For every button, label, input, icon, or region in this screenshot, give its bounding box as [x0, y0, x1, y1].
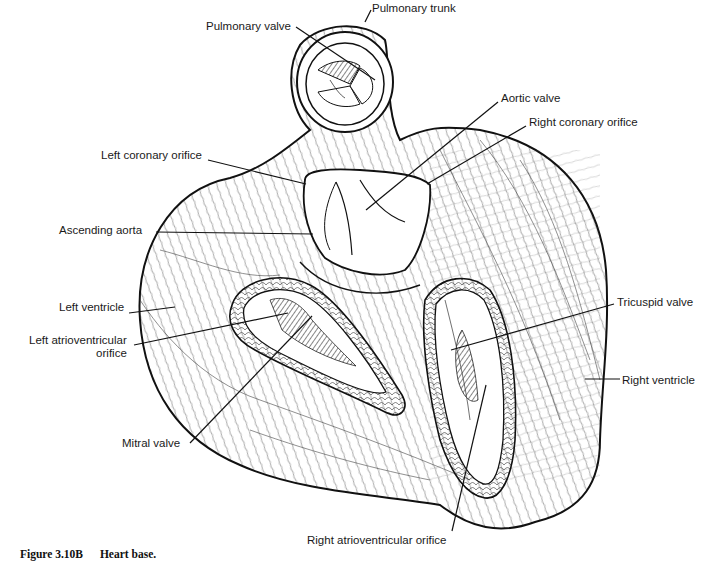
- label-left-av-line1: Left atrioventricular: [29, 334, 127, 346]
- figure-caption: Figure 3.10B Heart base.: [20, 548, 156, 560]
- label-pulmonary-trunk: Pulmonary trunk: [372, 2, 456, 15]
- figure-number: Figure 3.10B: [20, 548, 83, 560]
- label-ascending-aorta: Ascending aorta: [59, 224, 142, 237]
- label-aortic-valve: Aortic valve: [501, 92, 560, 105]
- label-left-coronary-orifice: Left coronary orifice: [101, 149, 202, 162]
- heart-base-figure: Pulmonary trunk Pulmonary valve Aortic v…: [0, 0, 728, 580]
- label-left-atrioventricular-orifice: Left atrioventricular orifice: [29, 334, 127, 360]
- label-pulmonary-valve: Pulmonary valve: [206, 20, 291, 33]
- label-left-ventricle: Left ventricle: [59, 301, 124, 314]
- label-left-av-line2: orifice: [96, 347, 127, 359]
- label-right-ventricle: Right ventricle: [622, 374, 695, 387]
- heart-illustration: [0, 0, 728, 580]
- label-tricuspid-valve: Tricuspid valve: [617, 296, 693, 309]
- leader-pulmonary-trunk: [365, 10, 371, 22]
- label-right-atrioventricular-orifice: Right atrioventricular orifice: [307, 534, 446, 547]
- figure-title: Heart base.: [100, 548, 156, 560]
- label-right-coronary-orifice: Right coronary orifice: [529, 116, 638, 129]
- pulmonary-trunk-shape: [297, 32, 393, 132]
- label-mitral-valve: Mitral valve: [122, 437, 180, 450]
